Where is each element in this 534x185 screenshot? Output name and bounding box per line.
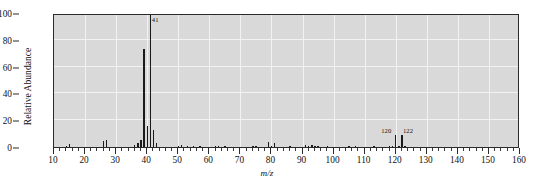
spectrum-peak: [106, 140, 107, 147]
spectrum-peak: [317, 146, 318, 147]
y-tick-mark: [13, 94, 19, 95]
x-tick-minor: [183, 148, 184, 151]
x-tick-minor: [420, 148, 421, 151]
x-tick-major: [53, 148, 54, 154]
spectrum-peak: [314, 146, 315, 147]
x-tick-label: 140: [450, 155, 464, 165]
x-tick-minor: [376, 148, 377, 151]
spectrum-peak: [355, 146, 356, 147]
spectrum-peak: [373, 146, 374, 147]
x-tick-minor: [277, 148, 278, 151]
x-tick-label: 60: [204, 155, 213, 165]
spectrum-peak: [289, 146, 290, 147]
x-tick-label: 20: [79, 155, 88, 165]
x-tick-minor: [513, 148, 514, 151]
spectrum-peak: [271, 146, 272, 147]
x-tick-label: 30: [110, 155, 119, 165]
x-tick-major: [302, 148, 303, 154]
x-tick-minor: [469, 148, 470, 151]
spectrum-peak: [215, 146, 216, 147]
x-tick-major: [333, 148, 334, 154]
y-tick-label: 100: [0, 9, 12, 19]
x-tick-minor: [196, 148, 197, 151]
x-tick-major: [426, 148, 427, 154]
x-tick-label: 90: [297, 155, 306, 165]
x-tick-minor: [308, 148, 309, 151]
x-tick-major: [208, 148, 209, 154]
x-axis-title: m/z: [0, 168, 534, 178]
peak-label-41: 41: [152, 16, 159, 23]
x-tick-major: [457, 148, 458, 154]
x-tick-minor: [134, 148, 135, 151]
x-tick-label: 120: [388, 155, 402, 165]
y-tick-mark: [13, 40, 19, 41]
x-tick-minor: [159, 148, 160, 151]
x-tick-minor: [246, 148, 247, 151]
x-tick-minor: [320, 148, 321, 151]
spectrum-peak: [395, 135, 396, 147]
spectrum-peak: [181, 145, 182, 147]
spectrum-peak: [398, 146, 399, 147]
spectrum-peak: [156, 143, 157, 147]
spectrum-peak: [404, 146, 405, 147]
y-tick-label: 40: [3, 89, 12, 99]
x-tick-minor: [233, 148, 234, 151]
x-tick-minor: [382, 148, 383, 151]
x-tick-minor: [258, 148, 259, 151]
spectrum-peak: [224, 146, 225, 147]
spectrum-peak: [308, 146, 309, 147]
x-tick-major: [115, 148, 116, 154]
spectrum-peak: [327, 146, 328, 147]
x-tick-minor: [128, 148, 129, 151]
spectrum-peak: [66, 146, 67, 147]
x-tick-major: [519, 148, 520, 154]
x-tick-minor: [451, 148, 452, 151]
x-tick-major: [84, 148, 85, 154]
x-tick-minor: [413, 148, 414, 151]
x-tick-label: 160: [512, 155, 526, 165]
spectrum-peak: [137, 143, 138, 147]
x-tick-minor: [103, 148, 104, 151]
x-tick-label: 110: [357, 155, 371, 165]
x-tick-minor: [152, 148, 153, 151]
spectrum-peak: [193, 146, 194, 147]
x-tick-minor: [494, 148, 495, 151]
x-tick-minor: [215, 148, 216, 151]
x-tick-minor: [438, 148, 439, 151]
x-tick-major: [177, 148, 178, 154]
x-tick-minor: [190, 148, 191, 151]
spectrum-peak: [103, 141, 104, 147]
plot-area: [53, 14, 519, 148]
spectrum-peak: [134, 145, 135, 147]
x-tick-minor: [202, 148, 203, 151]
x-tick-minor: [339, 148, 340, 151]
x-tick-minor: [283, 148, 284, 151]
x-tick-minor: [90, 148, 91, 151]
spectrum-peak: [401, 135, 402, 147]
peak-label-120: 120: [381, 127, 391, 134]
peak-label-122: 122: [403, 127, 413, 134]
spectrum-peak: [147, 126, 148, 147]
x-tick-minor: [59, 148, 60, 151]
y-tick-label: 60: [3, 63, 12, 73]
x-tick-label: 100: [326, 155, 340, 165]
x-tick-minor: [370, 148, 371, 151]
x-tick-minor: [345, 148, 346, 151]
x-tick-major: [270, 148, 271, 154]
x-tick-label: 130: [419, 155, 433, 165]
x-tick-minor: [482, 148, 483, 151]
x-tick-minor: [165, 148, 166, 151]
spectrum-peak: [199, 146, 200, 147]
spectrum-peak: [218, 146, 219, 147]
x-tick-minor: [252, 148, 253, 151]
spectrum-peak: [143, 49, 144, 147]
x-tick-minor: [507, 148, 508, 151]
x-tick-major: [364, 148, 365, 154]
y-tick-label: 20: [3, 116, 12, 126]
x-tick-minor: [295, 148, 296, 151]
x-tick-minor: [444, 148, 445, 151]
spectrum-peak: [268, 142, 269, 147]
spectrum-peak: [252, 146, 253, 147]
x-tick-minor: [96, 148, 97, 151]
spectrum-peak: [150, 14, 151, 147]
